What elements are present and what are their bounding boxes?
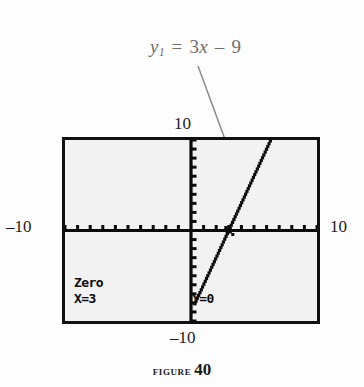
equation-variable: x (199, 36, 208, 57)
figure-caption: Figure40 (0, 360, 364, 380)
equation-lhs-subscript: 1 (159, 45, 165, 59)
plot-series-line (193, 140, 272, 305)
figure-caption-number: 40 (194, 360, 211, 379)
equation-coefficient: 3 (189, 36, 199, 57)
calculator-graph (65, 140, 317, 321)
axis-label-y-min: –10 (170, 328, 196, 348)
calc-readout-x-value: X=3 (74, 292, 96, 306)
equation-operator: – (213, 36, 227, 57)
equation-label: y1 = 3x – 9 (150, 36, 241, 60)
axis-label-x-max: 10 (330, 217, 347, 237)
equation-equals: = (170, 36, 185, 57)
equation-lhs-var: y (150, 36, 159, 57)
calc-readout-title: Zero (74, 276, 103, 290)
figure-caption-word: Figure (153, 363, 192, 378)
axis-label-y-max: 10 (174, 114, 191, 134)
figure-root: y1 = 3x – 9 10 –10 –10 10 Zero X=3 Y=0 F… (0, 0, 364, 387)
axis-label-x-min: –10 (6, 217, 32, 237)
equation-constant: 9 (231, 36, 241, 57)
calc-readout-y-value: Y=0 (192, 292, 214, 306)
calculator-screen: Zero X=3 Y=0 (62, 137, 320, 324)
